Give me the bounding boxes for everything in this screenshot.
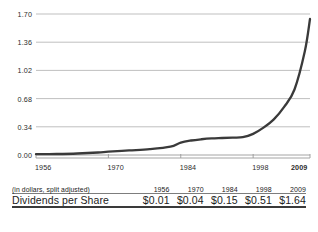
- x-tick-label: 1970: [107, 163, 123, 172]
- table-header-row: (in dollars, split adjusted) 19561970198…: [12, 186, 306, 194]
- table-row-label: Dividends per Share: [12, 194, 136, 208]
- table-header-year: 1956: [136, 186, 170, 194]
- table-head: (in dollars, split adjusted) 19561970198…: [12, 186, 306, 194]
- y-tick-label: 1.70: [2, 10, 32, 19]
- y-tick-label: 1.02: [2, 66, 32, 75]
- dividends-table: (in dollars, split adjusted) 19561970198…: [12, 186, 306, 208]
- x-tick-label: 1984: [180, 163, 196, 172]
- table-header-year: 2009: [272, 186, 306, 194]
- table-cell-value: $0.04: [170, 194, 204, 208]
- chart-page: 1.701.361.020.680.340.00 195619701984199…: [0, 0, 318, 232]
- table-body: Dividends per Share$0.01$0.04$0.15$0.51$…: [12, 194, 306, 208]
- x-tick-label: 2009: [291, 163, 307, 172]
- table-cell-value: $0.01: [136, 194, 170, 208]
- chart-canvas: [0, 0, 318, 176]
- series-line: [36, 19, 310, 154]
- table-header-year: 1970: [170, 186, 204, 194]
- table-cell-value: $1.64: [272, 194, 306, 208]
- table-cell-value: $0.15: [204, 194, 238, 208]
- series-group: [36, 19, 310, 154]
- table-header-year: 1998: [238, 186, 272, 194]
- y-tick-label: 0.00: [2, 151, 32, 160]
- y-tick-label: 0.68: [2, 94, 32, 103]
- line-chart: 1.701.361.020.680.340.00 195619701984199…: [0, 0, 318, 176]
- y-tick-label: 1.36: [2, 38, 32, 47]
- gridlines-group: [36, 14, 310, 155]
- x-tick-label: 1956: [35, 163, 51, 172]
- table-header-year: 1984: [204, 186, 238, 194]
- y-tick-label: 0.34: [2, 122, 32, 131]
- table-header-label: (in dollars, split adjusted): [12, 186, 136, 194]
- data-table: (in dollars, split adjusted) 19561970198…: [12, 186, 306, 208]
- table-row: Dividends per Share$0.01$0.04$0.15$0.51$…: [12, 194, 306, 208]
- x-tick-label: 1998: [252, 163, 268, 172]
- table-cell-value: $0.51: [238, 194, 272, 208]
